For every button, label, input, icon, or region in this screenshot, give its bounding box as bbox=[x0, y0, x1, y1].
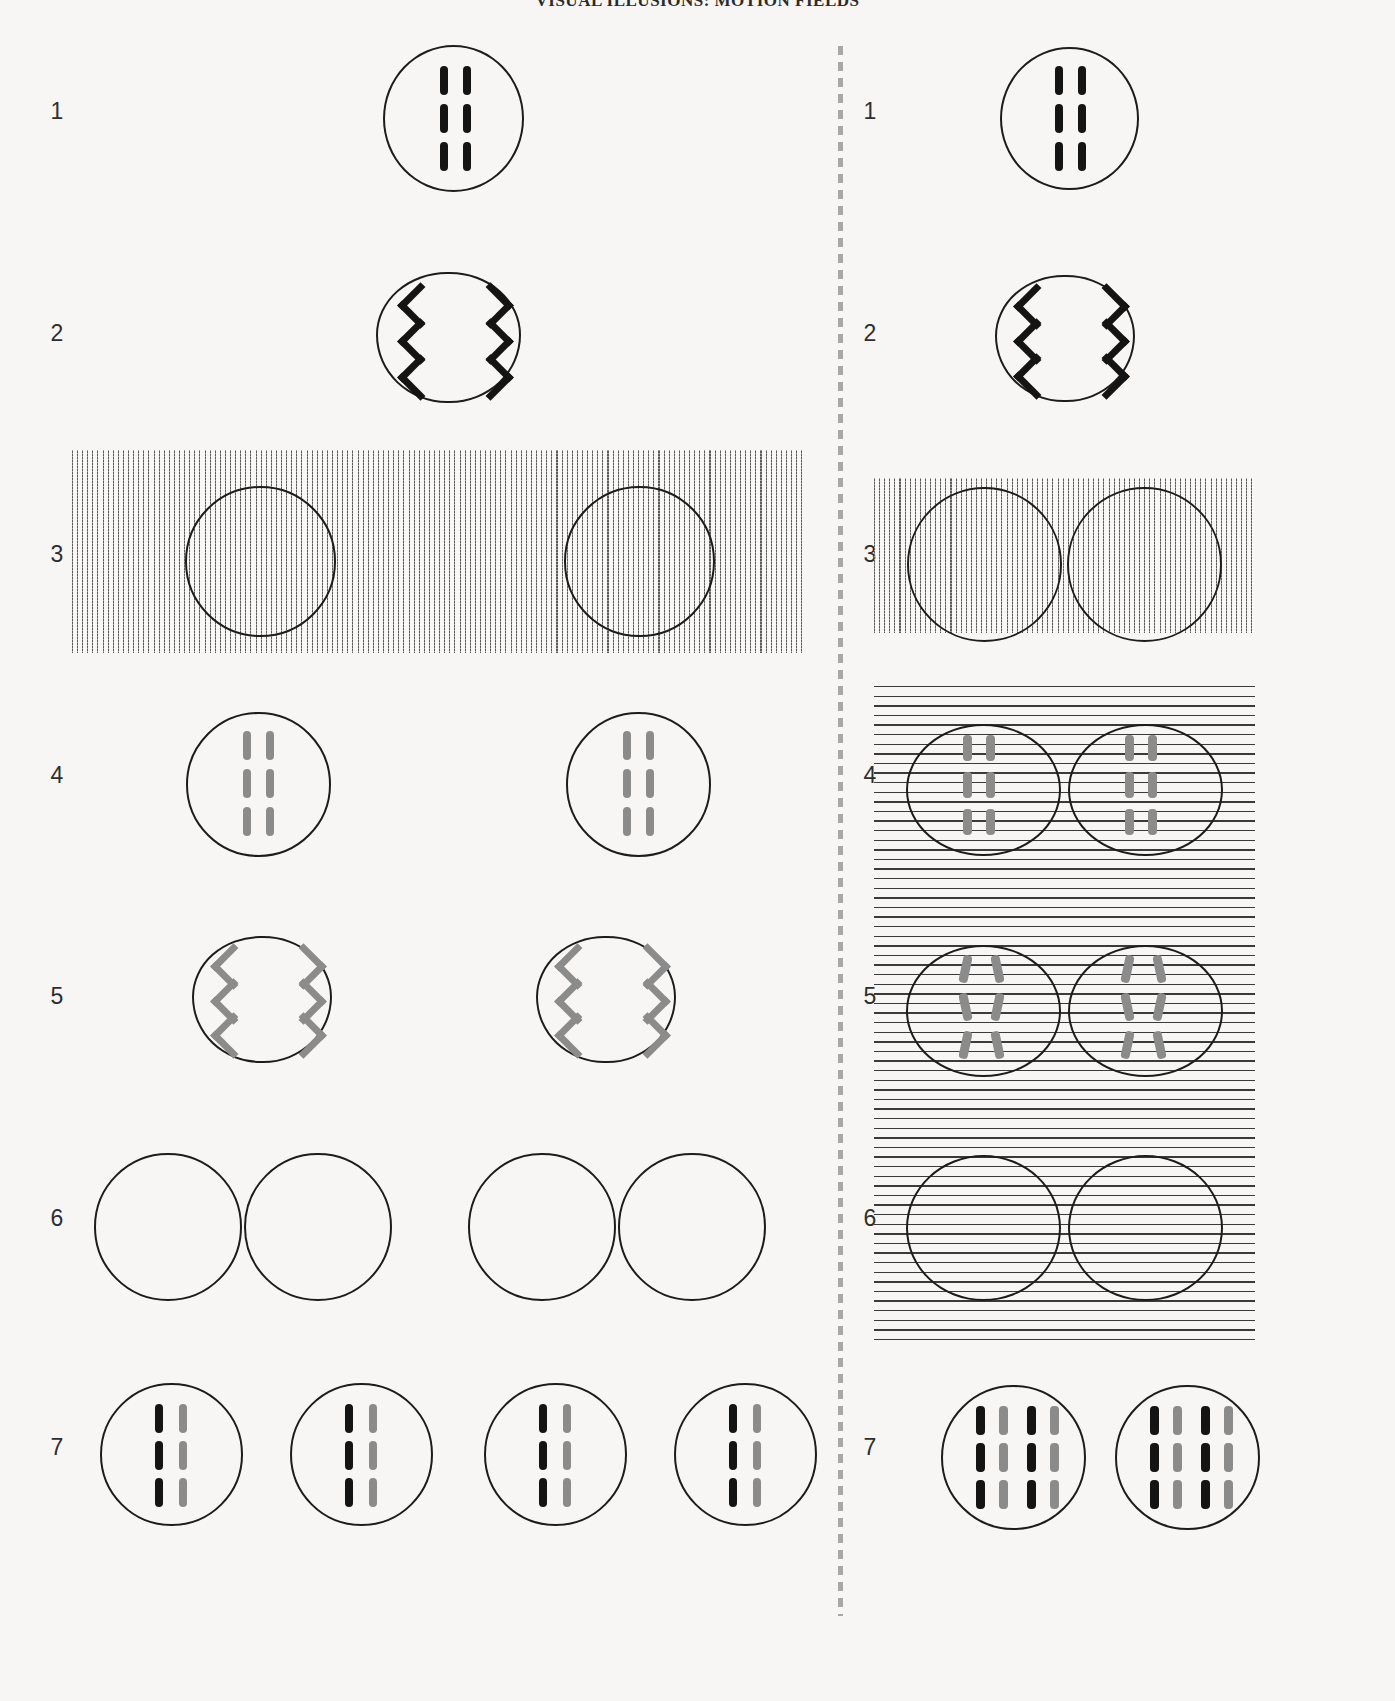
bar-black bbox=[463, 142, 471, 171]
circle-outline bbox=[1068, 945, 1223, 1077]
circle-outline bbox=[484, 1383, 627, 1526]
bar-gray bbox=[753, 1478, 761, 1507]
chevron-left-icon bbox=[217, 985, 243, 1011]
bar-black bbox=[976, 1406, 985, 1435]
bar-black bbox=[440, 142, 448, 171]
circle-outline bbox=[1068, 724, 1223, 856]
page-title: VISUAL ILLUSIONS: MOTION FIELDS bbox=[0, 0, 1395, 11]
bar-gray bbox=[1148, 772, 1157, 798]
chevron-right-icon bbox=[631, 1019, 657, 1045]
circle-outline bbox=[94, 1153, 242, 1301]
bar-black bbox=[1055, 66, 1063, 95]
circle-outline bbox=[566, 712, 711, 857]
chevron-left-icon bbox=[217, 950, 243, 976]
bar-black bbox=[729, 1441, 737, 1470]
circle-outline bbox=[383, 45, 524, 192]
chevron-left-icon bbox=[404, 361, 430, 387]
bar-gray bbox=[753, 1404, 761, 1433]
circle-outline bbox=[907, 487, 1062, 642]
bar-black bbox=[1201, 1443, 1210, 1472]
circle-outline bbox=[244, 1153, 392, 1301]
circle-outline bbox=[674, 1383, 817, 1526]
bar-gray bbox=[179, 1478, 187, 1507]
bar-gray bbox=[986, 809, 995, 835]
circle-outline bbox=[186, 712, 331, 857]
bar-gray bbox=[1148, 735, 1157, 761]
bar-gray bbox=[963, 809, 972, 835]
bar-black bbox=[539, 1478, 547, 1507]
bar-gray bbox=[179, 1441, 187, 1470]
bar-black bbox=[440, 104, 448, 133]
bar-gray bbox=[623, 807, 631, 836]
bar-gray bbox=[1224, 1443, 1233, 1472]
bar-black bbox=[345, 1441, 353, 1470]
circle-outline bbox=[468, 1153, 616, 1301]
chevron-left-icon bbox=[561, 950, 587, 976]
circle-outline bbox=[906, 724, 1061, 856]
bar-gray bbox=[243, 807, 251, 836]
bar-gray bbox=[986, 735, 995, 761]
chevron-right-icon bbox=[287, 1019, 313, 1045]
bar-black bbox=[155, 1404, 163, 1433]
circle-outline bbox=[906, 1155, 1061, 1301]
bar-black bbox=[155, 1478, 163, 1507]
bar-gray bbox=[1050, 1443, 1059, 1472]
bar-gray bbox=[179, 1404, 187, 1433]
row-number-left-7: 7 bbox=[42, 1434, 72, 1461]
bar-black bbox=[463, 104, 471, 133]
bar-gray bbox=[646, 807, 654, 836]
bar-black bbox=[345, 1478, 353, 1507]
bar-black bbox=[1078, 104, 1086, 133]
bar-gray bbox=[563, 1441, 571, 1470]
bar-gray bbox=[1224, 1406, 1233, 1435]
bar-gray bbox=[963, 772, 972, 798]
bar-gray bbox=[369, 1478, 377, 1507]
row-number-right-1: 1 bbox=[855, 98, 885, 125]
bar-gray bbox=[646, 731, 654, 760]
bar-gray bbox=[1125, 809, 1134, 835]
circle-outline bbox=[906, 945, 1061, 1077]
bar-gray bbox=[1173, 1480, 1182, 1509]
bar-gray bbox=[1173, 1443, 1182, 1472]
bar-black bbox=[440, 66, 448, 95]
circle-outline bbox=[100, 1383, 243, 1526]
chevron-right-icon bbox=[631, 985, 657, 1011]
bar-gray bbox=[1050, 1480, 1059, 1509]
bar-black bbox=[976, 1443, 985, 1472]
chevron-right-icon bbox=[287, 985, 313, 1011]
bar-black bbox=[1201, 1406, 1210, 1435]
bar-gray bbox=[1173, 1406, 1182, 1435]
bar-black bbox=[539, 1404, 547, 1433]
bar-gray bbox=[646, 769, 654, 798]
bar-gray bbox=[1125, 735, 1134, 761]
chevron-left-icon bbox=[561, 1019, 587, 1045]
bar-black bbox=[1027, 1480, 1036, 1509]
bar-black bbox=[1027, 1443, 1036, 1472]
circle-outline bbox=[941, 1385, 1086, 1530]
bar-black bbox=[1201, 1480, 1210, 1509]
bar-black bbox=[729, 1478, 737, 1507]
row-number-right-7: 7 bbox=[855, 1434, 885, 1461]
bar-gray bbox=[243, 769, 251, 798]
bar-gray bbox=[999, 1480, 1008, 1509]
row-number-left-5: 5 bbox=[42, 983, 72, 1010]
bar-black bbox=[1150, 1443, 1159, 1472]
bar-gray bbox=[266, 769, 274, 798]
row-number-left-6: 6 bbox=[42, 1205, 72, 1232]
bar-black bbox=[1055, 142, 1063, 171]
bar-gray bbox=[1050, 1406, 1059, 1435]
row-number-right-2: 2 bbox=[855, 320, 885, 347]
bar-gray bbox=[1224, 1480, 1233, 1509]
chevron-left-icon bbox=[1020, 325, 1046, 351]
chevron-left-icon bbox=[404, 289, 430, 315]
bar-gray bbox=[369, 1404, 377, 1433]
chevron-left-icon bbox=[1020, 360, 1046, 386]
bar-black bbox=[1055, 104, 1063, 133]
bar-gray bbox=[999, 1406, 1008, 1435]
circle-outline bbox=[1115, 1385, 1260, 1530]
chevron-right-icon bbox=[474, 361, 500, 387]
chevron-left-icon bbox=[217, 1019, 243, 1045]
bar-gray bbox=[1125, 772, 1134, 798]
bar-gray bbox=[266, 731, 274, 760]
bar-black bbox=[1150, 1480, 1159, 1509]
